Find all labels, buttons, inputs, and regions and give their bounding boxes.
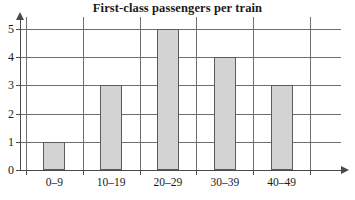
x-category-label: 30–39	[196, 177, 253, 189]
y-tick-4	[16, 57, 21, 58]
gridline-5	[20, 29, 341, 30]
category-separator-4	[253, 17, 254, 170]
gridline-3	[20, 85, 341, 86]
x-tick-1	[83, 170, 84, 175]
x-tick-0	[26, 170, 27, 175]
category-separator-3	[196, 17, 197, 170]
x-axis-arrow-icon	[341, 166, 349, 174]
y-tick-2	[16, 114, 21, 115]
category-separator-2	[140, 17, 141, 170]
gridline-1	[20, 142, 341, 143]
y-tick-label: 1	[0, 136, 14, 148]
histogram-figure: First-class passengers per train 012345 …	[0, 0, 355, 200]
category-separator-1	[83, 17, 84, 170]
y-tick-label: 2	[0, 108, 14, 120]
x-tick-3	[196, 170, 197, 175]
bar-30–39	[214, 57, 236, 170]
y-tick-label: 3	[0, 79, 14, 91]
bar-10–19	[100, 85, 122, 170]
x-tick-4	[253, 170, 254, 175]
y-axis-line	[20, 20, 21, 170]
y-tick-label: 4	[0, 51, 14, 63]
y-tick-label: 5	[0, 23, 14, 35]
gridline-2	[20, 114, 341, 115]
y-tick-5	[16, 29, 21, 30]
plot-area: 012345 0–910–1920–2930–3940–49	[0, 0, 355, 200]
y-tick-1	[16, 142, 21, 143]
x-category-label: 0–9	[26, 177, 83, 189]
bar-40–49	[271, 85, 293, 170]
x-category-label: 40–49	[253, 177, 310, 189]
x-category-label: 10–19	[83, 177, 140, 189]
bar-20–29	[157, 29, 179, 170]
x-tick-5	[310, 170, 311, 175]
y-tick-label: 0	[0, 164, 14, 176]
y-tick-3	[16, 85, 21, 86]
x-category-label: 20–29	[140, 177, 197, 189]
gridline-4	[20, 57, 341, 58]
bar-0–9	[43, 142, 65, 170]
x-axis-line	[20, 170, 342, 171]
y-axis-arrow-icon	[16, 12, 24, 20]
category-separator-5	[310, 17, 311, 170]
y-tick-0	[16, 170, 21, 171]
x-tick-2	[140, 170, 141, 175]
category-separator-0	[26, 17, 27, 170]
